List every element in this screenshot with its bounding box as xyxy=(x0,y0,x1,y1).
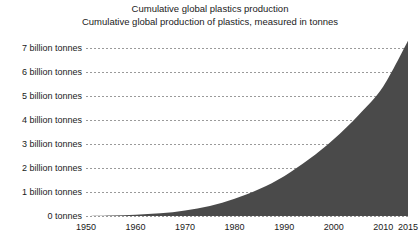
x-tick-label-2015: 2015 xyxy=(398,222,418,232)
x-tick-label-1990: 1990 xyxy=(274,222,294,232)
x-axis: 19501960197019801990200020102015 xyxy=(0,0,420,240)
x-tick-label-1950: 1950 xyxy=(76,222,96,232)
x-tick-label-2000: 2000 xyxy=(324,222,344,232)
chart-page: Cumulative global plastics production Cu… xyxy=(0,0,420,240)
x-tick-label-1970: 1970 xyxy=(175,222,195,232)
x-tick-label-1960: 1960 xyxy=(126,222,146,232)
x-tick-label-2010: 2010 xyxy=(373,222,393,232)
plot-area: 0 tonnes1 billion tonnes2 billion tonnes… xyxy=(0,0,420,240)
x-tick-label-1980: 1980 xyxy=(225,222,245,232)
